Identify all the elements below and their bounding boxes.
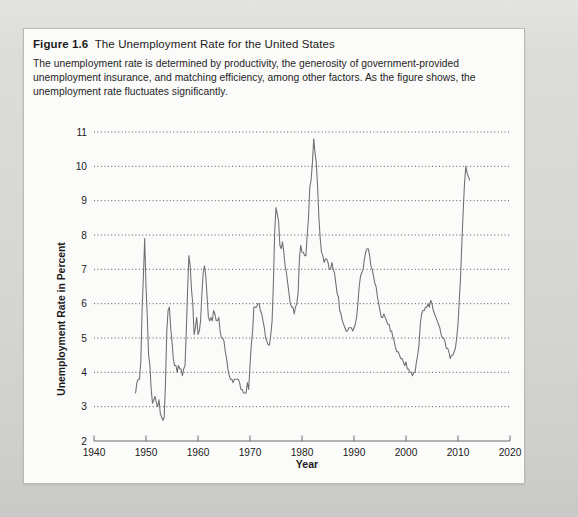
x-tick-label-1940: 1940 [83, 447, 106, 458]
figure-caption: The unemployment rate is determined by p… [33, 57, 517, 100]
x-axis-label: Year [296, 458, 318, 470]
figure-title: Figure 1.6 The Unemployment Rate for the… [33, 38, 513, 50]
y-tick-label-8: 8 [81, 230, 87, 241]
y-tick-label-10: 10 [76, 161, 88, 172]
y-tick-label-11: 11 [76, 127, 87, 138]
y-axis-label: Unemployment Rate in Percent [56, 242, 67, 396]
unemployment-series-line [136, 139, 470, 421]
y-tick-label-9: 9 [81, 195, 87, 206]
x-tick-label-1990: 1990 [343, 447, 366, 458]
x-tick-label-1960: 1960 [187, 447, 210, 458]
chart-plot-area: 234567891011 194019501960197019801990200… [52, 114, 522, 474]
y-tick-label-4: 4 [81, 367, 87, 378]
x-tick-label-1950: 1950 [135, 447, 158, 458]
x-tick-label-2020: 2020 [499, 447, 522, 458]
x-axis-tick-labels: 194019501960197019801990200020102020 [83, 447, 522, 458]
y-tick-label-2: 2 [81, 436, 87, 447]
y-axis-tick-labels: 234567891011 [76, 127, 88, 447]
gridlines-group [94, 132, 510, 407]
y-tick-label-7: 7 [81, 264, 87, 275]
y-tick-label-5: 5 [81, 333, 87, 344]
x-tick-label-2000: 2000 [395, 447, 418, 458]
y-tick-label-3: 3 [81, 401, 87, 412]
x-axis-group [94, 436, 510, 442]
x-tick-label-1980: 1980 [291, 447, 314, 458]
figure-container: Figure 1.6 The Unemployment Rate for the… [23, 28, 525, 484]
x-tick-label-1970: 1970 [239, 447, 262, 458]
y-tick-label-6: 6 [81, 298, 87, 309]
figure-title-text: The Unemployment Rate for the United Sta… [95, 38, 335, 50]
figure-number: Figure 1.6 [33, 38, 88, 50]
x-tick-label-2010: 2010 [447, 447, 470, 458]
unemployment-line-chart: 234567891011 194019501960197019801990200… [52, 114, 522, 474]
